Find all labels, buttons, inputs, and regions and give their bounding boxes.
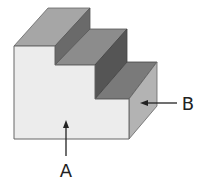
staircase-diagram: A B xyxy=(0,0,203,186)
label-b: B xyxy=(182,93,194,114)
label-a: A xyxy=(60,160,73,181)
